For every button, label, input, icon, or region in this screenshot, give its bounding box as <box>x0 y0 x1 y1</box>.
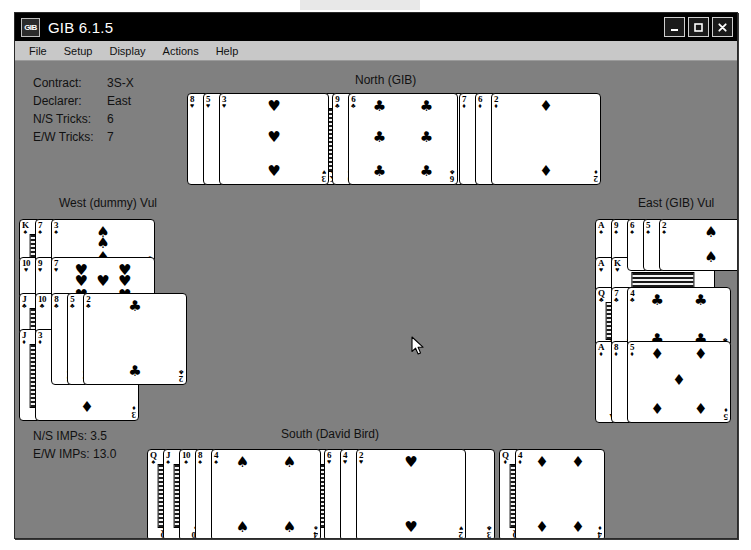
close-button[interactable] <box>712 17 733 37</box>
card-corner-index: 7♠ <box>38 221 42 236</box>
card-corner-index: 4♦ <box>598 524 602 538</box>
card-corner-index: 2♠ <box>662 221 666 236</box>
card-corner-index: 5♦ <box>724 406 728 421</box>
ew-tricks-value: 7 <box>107 130 114 144</box>
card-corner-index: 6♣ <box>351 95 356 110</box>
menu-item-display[interactable]: Display <box>107 44 147 58</box>
menu-item-help[interactable]: Help <box>214 44 241 58</box>
card[interactable]: 3♥3♥♥♥♥ <box>219 93 329 185</box>
card[interactable]: 2♠2♠♠♠ <box>659 219 737 271</box>
card-pip: ♠ <box>283 520 296 535</box>
card-corner-index: J♣ <box>22 295 27 310</box>
card-corner-index: J♦ <box>22 331 26 346</box>
imps-panel: N/S IMPs: 3.5 E/W IMPs: 13.0 <box>33 429 116 465</box>
card-pip: ♠ <box>704 225 717 240</box>
menu-item-actions[interactable]: Actions <box>161 44 201 58</box>
card-pip: ♦ <box>571 520 584 535</box>
card-pip: ♣ <box>128 299 141 314</box>
card-corner-index: 6♠ <box>630 221 634 236</box>
card[interactable]: 2♣2♣♣♣ <box>83 293 187 385</box>
seat-label-east: East (GIB) Vul <box>638 196 714 210</box>
menu-bar: File Setup Display Actions Help <box>15 41 737 61</box>
card-corner-index: 6♣ <box>450 168 455 183</box>
card[interactable]: 5♦5♦♦♦♦♦♦ <box>627 341 731 423</box>
menu-item-setup[interactable]: Setup <box>62 44 95 58</box>
contract-info-panel: Contract: 3S-X Declarer: East N/S Tricks… <box>33 76 134 148</box>
card-corner-index: 3♥ <box>222 95 226 110</box>
card-corner-index: 4♠ <box>214 451 218 466</box>
menu-item-file[interactable]: File <box>27 44 49 58</box>
mouse-cursor <box>411 336 425 356</box>
card-corner-index: 4♠ <box>314 524 318 538</box>
card[interactable]: 2♦2♦♦♦ <box>491 93 601 185</box>
ns-tricks-row: N/S Tricks: 6 <box>33 112 134 126</box>
seat-label-north: North (GIB) <box>355 73 416 87</box>
card-corner-index: 2♥ <box>459 524 463 538</box>
card-corner-index: 5♥ <box>206 95 210 110</box>
scan-artifact <box>300 0 420 10</box>
card-corner-index: 7♣ <box>614 289 619 304</box>
card-corner-index: 3♣ <box>487 524 492 538</box>
card[interactable]: 2♥2♥♥♥ <box>356 449 466 538</box>
card-pip: ♣ <box>694 293 707 308</box>
card-pip: ♦ <box>535 455 548 470</box>
card-pip: ♦ <box>694 402 707 417</box>
card[interactable]: 6♣6♣♣♣♣♣♣♣ <box>348 93 458 185</box>
card-corner-index: 10♣ <box>38 295 46 310</box>
card-pip: ♣ <box>373 164 386 179</box>
card-corner-index: 4♥ <box>343 451 347 466</box>
app-icon: GIB <box>21 18 40 37</box>
card-corner-index: K♥ <box>614 259 621 274</box>
card-corner-index: 6♥ <box>327 451 331 466</box>
ns-imps: N/S IMPs: 3.5 <box>33 429 116 444</box>
card-corner-index: J♠ <box>166 451 170 466</box>
card-corner-index: 4♣ <box>630 289 635 304</box>
ew-tricks-label: E/W Tricks: <box>33 130 107 144</box>
card-corner-index: 5♠ <box>646 221 650 236</box>
card-pip: ♠ <box>704 250 717 265</box>
card-corner-index: 6♦ <box>478 95 482 110</box>
card-corner-index: 8♦ <box>614 343 618 358</box>
card-corner-index: 9♥ <box>38 259 42 274</box>
card-pip: ♦ <box>672 373 685 388</box>
window-title: GIB 6.1.5 <box>48 19 113 36</box>
card-pip: ♦ <box>539 164 552 179</box>
card-corner-index: 8♠ <box>198 451 202 466</box>
card-corner-index: 3♠ <box>54 221 58 236</box>
card-corner-index: A♦ <box>598 343 604 358</box>
declarer-value: East <box>107 94 131 108</box>
card-corner-index: 5♣ <box>70 295 75 310</box>
ns-tricks-label: N/S Tricks: <box>33 112 107 126</box>
application-window: GIB GIB 6.1.5 File Setup Display Actions… <box>14 12 738 539</box>
card[interactable]: 4♦4♦♦♦♦♦ <box>515 449 605 538</box>
screen: GIB GIB 6.1.5 File Setup Display Actions… <box>0 0 751 550</box>
card-corner-index: 2♦ <box>494 95 498 110</box>
card-pip: ♣ <box>420 130 433 145</box>
card-corner-index: K♠ <box>22 221 29 236</box>
window-controls <box>664 17 733 37</box>
seat-label-south: South (David Bird) <box>281 427 379 441</box>
card-corner-index: 5♦ <box>630 343 634 358</box>
card[interactable]: 4♠4♠♠♠♠♠ <box>211 449 321 538</box>
minimize-button[interactable] <box>664 17 685 37</box>
card-corner-index: 7♦ <box>462 95 466 110</box>
card-corner-index: 3♦ <box>132 404 136 419</box>
card-pip: ♦ <box>571 455 584 470</box>
title-bar: GIB GIB 6.1.5 <box>15 13 737 41</box>
card-pip: ♦ <box>694 347 707 362</box>
card-pip: ♣ <box>650 293 663 308</box>
card-corner-index: 4♦ <box>518 451 522 466</box>
card-corner-index: A♠ <box>598 221 604 236</box>
card-table: Contract: 3S-X Declarer: East N/S Tricks… <box>15 61 737 538</box>
card-corner-index: 8♣ <box>54 295 59 310</box>
seat-label-west: West (dummy) Vul <box>59 196 157 210</box>
contract-label: Contract: <box>33 76 107 90</box>
ew-imps: E/W IMPs: 13.0 <box>33 447 116 462</box>
declarer-label: Declarer: <box>33 94 107 108</box>
maximize-button[interactable] <box>688 17 709 37</box>
card-pip: ♣ <box>373 130 386 145</box>
card-pip: ♣ <box>420 99 433 114</box>
card-corner-index: A♥ <box>598 259 604 274</box>
card-pip: ♥ <box>404 455 417 470</box>
card-pip: ♦ <box>535 520 548 535</box>
